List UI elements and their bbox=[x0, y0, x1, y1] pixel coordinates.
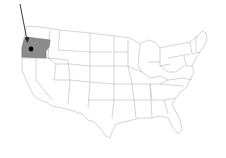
capital-marker bbox=[29, 47, 34, 52]
us-map: United States map with Oregon highlighte… bbox=[0, 0, 226, 158]
pointer-arrow bbox=[20, 4, 27, 40]
